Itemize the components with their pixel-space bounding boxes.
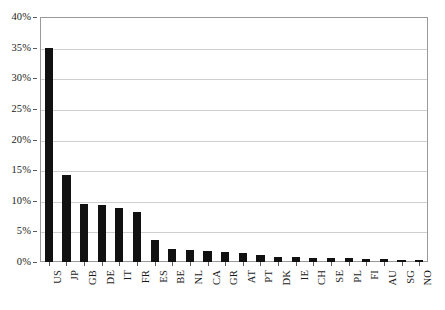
x-tick-label-jp: JP [70, 270, 81, 280]
x-tick-mark [296, 262, 297, 266]
bar-slot [362, 17, 370, 262]
bar-chart: 0%5%10%15%20%25%30%35%40% USJPGBDEITFRES… [0, 0, 445, 310]
bar-slot [45, 17, 53, 262]
x-tick-label-pl: PL [353, 270, 364, 283]
y-tick-mark [33, 109, 37, 110]
bar-ca [203, 251, 211, 262]
bar-slot [309, 17, 317, 262]
bar-slot [80, 17, 88, 262]
x-tick-mark [190, 262, 191, 266]
x-tick-mark [84, 262, 85, 266]
x-tick-label-de: DE [106, 270, 117, 284]
bar-slot [203, 17, 211, 262]
bar-de [98, 205, 106, 262]
bar-pt [256, 255, 264, 262]
y-axis: 0%5%10%15%20%25%30%35%40% [0, 0, 40, 310]
x-tick-label-it: IT [123, 270, 134, 280]
bar-slot [345, 17, 353, 262]
bar-slot [221, 17, 229, 262]
bar-us [45, 48, 53, 262]
x-tick-label-us: US [53, 270, 64, 284]
x-tick-mark [102, 262, 103, 266]
x-tick-label-pt: PT [264, 270, 275, 283]
x-tick-label-au: AU [388, 270, 399, 286]
x-tick-label-dk: DK [282, 270, 293, 286]
y-tick-label: 25% [11, 104, 31, 115]
x-tick-mark [349, 262, 350, 266]
x-tick-mark [208, 262, 209, 266]
bar-es [151, 240, 159, 262]
x-tick-mark [172, 262, 173, 266]
y-tick-label: 0% [17, 257, 31, 268]
x-tick-mark [225, 262, 226, 266]
bar-slot [62, 17, 70, 262]
x-tick-mark [402, 262, 403, 266]
y-tick-label: 35% [11, 42, 31, 53]
bar-at [239, 253, 247, 262]
x-tick-label-fr: FR [141, 270, 152, 283]
x-tick-mark [49, 262, 50, 266]
x-tick-label-gb: GB [88, 270, 99, 285]
y-tick-label: 15% [11, 165, 31, 176]
bar-jp [62, 175, 70, 262]
bar-it [115, 208, 123, 263]
x-tick-label-se: SE [335, 270, 346, 283]
x-tick-mark [384, 262, 385, 266]
x-tick-mark [119, 262, 120, 266]
y-tick-mark [33, 140, 37, 141]
bar-slot [415, 17, 423, 262]
x-tick-label-es: ES [159, 270, 170, 283]
bars-layer [40, 17, 428, 262]
bar-fr [133, 212, 141, 262]
bar-gb [80, 204, 88, 262]
x-tick-mark [313, 262, 314, 266]
x-tick-label-be: BE [176, 270, 187, 284]
x-tick-label-ca: CA [212, 270, 223, 285]
bar-slot [327, 17, 335, 262]
x-tick-mark [419, 262, 420, 266]
bar-be [168, 249, 176, 262]
y-tick-label: 10% [11, 196, 31, 207]
x-tick-label-at: AT [247, 270, 258, 283]
x-tick-label-sg: SG [406, 270, 417, 284]
bar-slot [292, 17, 300, 262]
bar-nl [186, 250, 194, 262]
x-tick-label-ie: IE [300, 270, 311, 280]
bar-slot [380, 17, 388, 262]
y-tick-mark [33, 201, 37, 202]
bar-slot [98, 17, 106, 262]
bar-slot [186, 17, 194, 262]
y-tick-mark [33, 231, 37, 232]
x-tick-label-fi: FI [370, 270, 381, 280]
x-tick-mark [243, 262, 244, 266]
bar-slot [151, 17, 159, 262]
x-tick-mark [366, 262, 367, 266]
y-tick-label: 30% [11, 73, 31, 84]
y-tick-mark [33, 17, 37, 18]
x-tick-label-gr: GR [229, 270, 240, 285]
y-tick-mark [33, 78, 37, 79]
bar-slot [397, 17, 405, 262]
bar-slot [168, 17, 176, 262]
bar-gr [221, 252, 229, 262]
bar-slot [133, 17, 141, 262]
bar-slot [115, 17, 123, 262]
bar-slot [256, 17, 264, 262]
x-tick-mark [137, 262, 138, 266]
x-tick-mark [155, 262, 156, 266]
x-tick-mark [331, 262, 332, 266]
bar-slot [239, 17, 247, 262]
x-tick-mark [260, 262, 261, 266]
y-tick-mark [33, 48, 37, 49]
x-tick-label-nl: NL [194, 270, 205, 284]
x-tick-mark [278, 262, 279, 266]
bar-slot [274, 17, 282, 262]
y-tick-label: 5% [17, 226, 31, 237]
y-tick-mark [33, 262, 37, 263]
y-tick-mark [33, 170, 37, 171]
x-tick-label-no: NO [423, 270, 434, 286]
x-tick-mark [66, 262, 67, 266]
y-tick-label: 20% [11, 134, 31, 145]
y-tick-label: 40% [11, 12, 31, 23]
x-tick-label-ch: CH [317, 270, 328, 285]
